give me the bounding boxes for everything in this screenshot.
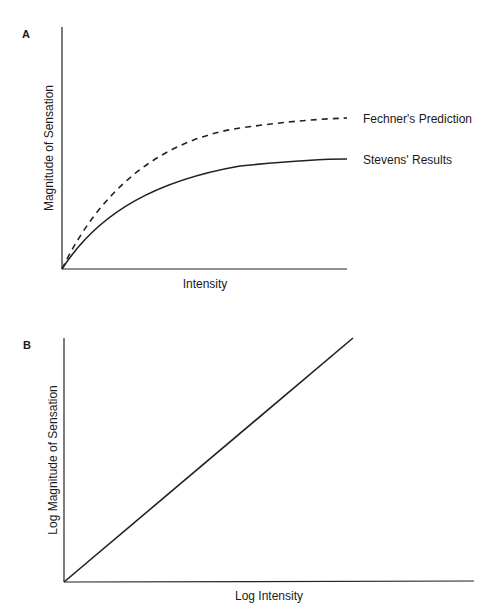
- legend-stevens: Stevens' Results: [363, 153, 452, 167]
- panel-b-y-label: Log Magnitude of Sensation: [46, 385, 60, 534]
- panel-a-x-label: Intensity: [183, 277, 228, 291]
- figure: A Fechner's Prediction Stevens' Results …: [0, 0, 500, 616]
- fechner-curve: [62, 118, 347, 269]
- panel-a-letter: A: [22, 28, 30, 40]
- stevens-curve: [62, 159, 347, 269]
- panel-b: B Log Intensity Log Magnitude of Sensati…: [23, 338, 474, 603]
- log-log-line: [64, 338, 353, 582]
- panel-a: A Fechner's Prediction Stevens' Results …: [22, 27, 472, 291]
- panel-b-x-label: Log Intensity: [235, 589, 303, 603]
- panel-b-letter: B: [23, 339, 31, 351]
- legend-fechner: Fechner's Prediction: [363, 112, 472, 126]
- panel-b-x-axis: [64, 581, 474, 582]
- panel-a-y-label: Magnitude of Sensation: [42, 85, 56, 211]
